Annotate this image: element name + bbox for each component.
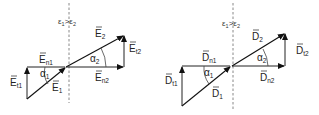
svg-text:Dn2: Dn2 (260, 72, 275, 84)
permittivity-condition: ε1>ε2 (222, 19, 240, 29)
label-dt1: Dt1 (165, 74, 178, 87)
svg-text:En2: En2 (95, 72, 109, 84)
label-en1: En1 (39, 53, 53, 66)
d-field-diagram: ε1>ε2 Dn1 D2 Dt2 α2 (165, 3, 309, 111)
label-dn1: Dn1 (202, 51, 217, 64)
label-d2: D2 (252, 30, 263, 43)
svg-text:α1: α1 (40, 68, 50, 80)
label-dt2: Dt2 (296, 44, 309, 57)
refraction-diagrams: ε1>ε2 En1 E2 Et2 α2 (0, 0, 319, 115)
svg-text:α1: α1 (204, 67, 214, 79)
svg-text:E2: E2 (95, 28, 106, 40)
label-et2: Et2 (129, 42, 141, 55)
label-et1: Et1 (10, 76, 22, 89)
label-e2: E2 (95, 27, 106, 40)
svg-text:Dn1: Dn1 (202, 52, 217, 64)
label-en2: En2 (95, 71, 109, 84)
label-alpha1: α1 (204, 67, 214, 79)
e-field-diagram: ε1>ε2 En1 E2 Et2 α2 (10, 3, 141, 103)
svg-text:E1: E1 (52, 82, 63, 94)
label-e1: E1 (52, 81, 63, 94)
svg-text:Et2: Et2 (129, 43, 141, 55)
svg-text:Et1: Et1 (10, 77, 22, 89)
label-d1: D1 (212, 87, 223, 100)
alpha2-arc (101, 48, 106, 67)
svg-text:D2: D2 (252, 31, 263, 43)
svg-text:En1: En1 (39, 54, 53, 66)
svg-text:Dt1: Dt1 (165, 75, 178, 87)
permittivity-condition: ε1>ε2 (58, 17, 76, 27)
label-alpha2: α2 (90, 53, 100, 65)
label-alpha1: α1 (40, 68, 50, 80)
svg-text:D1: D1 (212, 88, 223, 100)
label-dn2: Dn2 (260, 71, 275, 84)
svg-text:Dt2: Dt2 (296, 45, 309, 57)
svg-text:α2: α2 (90, 53, 100, 65)
